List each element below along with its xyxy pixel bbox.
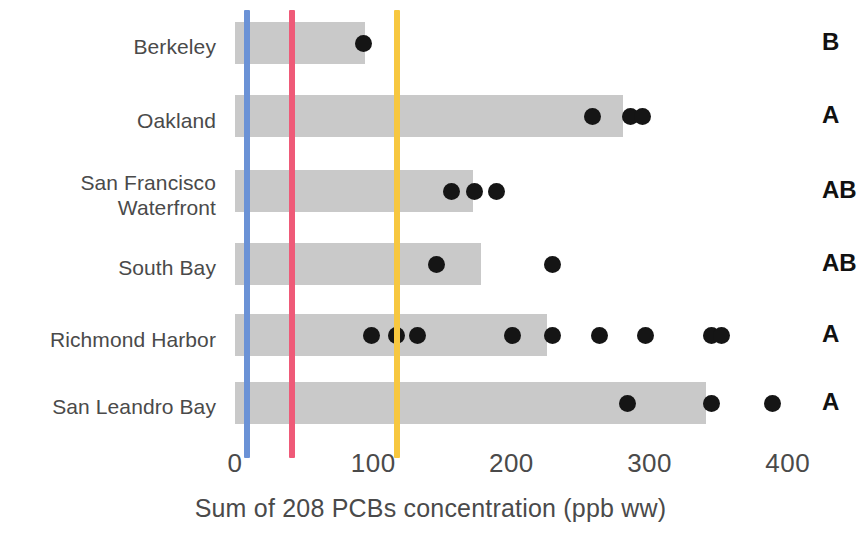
category-label: Oakland	[137, 108, 216, 133]
group-letter: AB	[822, 176, 857, 204]
data-point	[634, 108, 651, 125]
data-point	[355, 35, 372, 52]
data-point	[466, 183, 483, 200]
data-point	[544, 327, 561, 344]
x-axis: 0100200300400	[0, 448, 861, 488]
data-point	[544, 256, 561, 273]
group-letter: AB	[822, 249, 857, 277]
bar	[235, 170, 473, 212]
chart-figure: BerkeleyBOaklandASan Francisco Waterfron…	[0, 0, 861, 534]
x-tick-label: 0	[228, 448, 243, 479]
category-label: San Leandro Bay	[52, 394, 216, 419]
category-label: San Francisco Waterfront	[80, 170, 216, 220]
data-point	[713, 327, 730, 344]
data-point	[504, 327, 521, 344]
data-point	[619, 395, 636, 412]
group-letter: A	[822, 101, 839, 129]
x-tick-label: 200	[489, 448, 534, 479]
blue-threshold-line	[244, 10, 250, 458]
data-point	[637, 327, 654, 344]
category-label: Berkeley	[133, 34, 216, 59]
category-label: Richmond Harbor	[50, 327, 216, 352]
x-tick-label: 300	[627, 448, 672, 479]
data-point	[703, 395, 720, 412]
data-point	[363, 327, 380, 344]
group-letter: B	[822, 28, 839, 56]
data-point	[584, 108, 601, 125]
data-point	[409, 327, 426, 344]
data-point	[764, 395, 781, 412]
plot-area: BerkeleyBOaklandASan Francisco Waterfron…	[0, 0, 861, 455]
x-axis-title: Sum of 208 PCBs concentration (ppb ww)	[0, 494, 861, 523]
x-tick-label: 400	[765, 448, 810, 479]
group-letter: A	[822, 320, 839, 348]
pink-threshold-line	[289, 10, 295, 458]
x-tick-label: 100	[351, 448, 396, 479]
group-letter: A	[822, 388, 839, 416]
category-label: South Bay	[118, 255, 216, 280]
data-point	[591, 327, 608, 344]
yellow-threshold-line	[394, 10, 400, 458]
data-point	[428, 256, 445, 273]
data-point	[488, 183, 505, 200]
data-point	[443, 183, 460, 200]
bar	[235, 22, 365, 64]
